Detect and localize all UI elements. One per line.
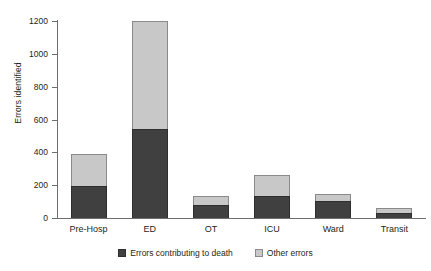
y-tick-label: 0	[4, 214, 48, 223]
bar-segment[interactable]	[132, 21, 168, 129]
bar-segment[interactable]	[376, 213, 412, 218]
bar-segment[interactable]	[71, 186, 107, 218]
legend-label: Errors contributing to death	[130, 248, 233, 258]
bar-segment[interactable]	[315, 194, 351, 201]
bar-segment[interactable]	[254, 196, 290, 218]
bar-group[interactable]	[132, 21, 168, 218]
bar-segment[interactable]	[193, 205, 229, 218]
legend-label: Other errors	[267, 248, 313, 258]
bar-segment[interactable]	[132, 129, 168, 218]
y-tick-label: 1000	[4, 50, 48, 59]
bar-group[interactable]	[254, 175, 290, 218]
bar-group[interactable]	[376, 208, 412, 218]
bar-group[interactable]	[71, 154, 107, 218]
legend-item[interactable]: Other errors	[255, 248, 313, 258]
bar-segment[interactable]	[254, 175, 290, 196]
x-axis-line	[57, 218, 426, 219]
bar-segment[interactable]	[71, 154, 107, 186]
y-tick-label: 400	[4, 148, 48, 157]
x-axis-label: Transit	[354, 223, 431, 235]
legend-swatch-icon	[255, 249, 263, 257]
y-tick-label: 200	[4, 181, 48, 190]
plot-area	[58, 21, 425, 218]
legend-swatch-icon	[118, 249, 126, 257]
bar-group[interactable]	[193, 196, 229, 218]
bar-segment[interactable]	[193, 196, 229, 205]
chart-legend: Errors contributing to deathOther errors	[0, 248, 431, 258]
y-tick-label: 600	[4, 116, 48, 125]
bar-segment[interactable]	[315, 201, 351, 218]
y-tick-mark	[52, 218, 58, 219]
y-tick-label: 800	[4, 83, 48, 92]
legend-item[interactable]: Errors contributing to death	[118, 248, 233, 258]
y-tick-label: 1200	[4, 17, 48, 26]
bar-group[interactable]	[315, 194, 351, 218]
stacked-bar-chart: Errors identified 020040060080010001200 …	[0, 0, 431, 271]
